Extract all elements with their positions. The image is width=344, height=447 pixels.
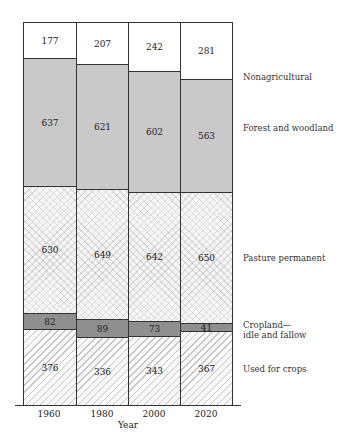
bar-segment-nonagricultural-2020: 281	[180, 22, 233, 80]
bar-segment-cropland-idle-1960: 82	[23, 313, 77, 330]
bar-value-label: 89	[97, 324, 108, 334]
legend-nonagricultural: Nonagricultural	[243, 72, 312, 82]
legend-cropland-idle-line1: Cropland—	[243, 320, 306, 330]
x-axis-title: Year	[108, 420, 148, 430]
bar-segment-cropland-idle-2020: 41	[180, 323, 233, 332]
bar-value-label: 637	[41, 118, 58, 128]
legend-cropland-idle: Cropland— idle and fallow	[243, 320, 306, 340]
legend-used-for-crops: Used for crops	[243, 364, 306, 374]
bar-segment-nonagricultural-1960: 177	[23, 22, 77, 59]
bar-value-label: 630	[41, 245, 58, 255]
bar-segment-used-for-crops-1980: 336	[76, 337, 129, 406]
bar-value-label: 376	[41, 363, 58, 373]
bar-value-label: 336	[94, 367, 111, 377]
bar-value-label: 649	[94, 250, 111, 260]
bar-value-label: 207	[94, 39, 111, 49]
x-axis-line	[15, 405, 241, 406]
x-tick-label-2000: 2000	[128, 409, 180, 419]
bar-segment-forest-woodland-2020: 563	[180, 79, 233, 193]
bar-segment-pasture-permanent-2000: 642	[128, 192, 181, 322]
stacked-bar-chart: 3768263063717719603368964962120719803437…	[0, 0, 344, 447]
bar-value-label: 367	[198, 364, 215, 374]
bar-segment-cropland-idle-1980: 89	[76, 319, 129, 338]
bar-segment-nonagricultural-1980: 207	[76, 22, 129, 65]
bar-value-label: 242	[146, 42, 163, 52]
bar-segment-forest-woodland-1960: 637	[23, 58, 77, 187]
legend-forest-woodland: Forest and woodland	[243, 123, 333, 133]
bar-value-label: 621	[94, 122, 111, 132]
bar-segment-used-for-crops-2000: 343	[128, 336, 181, 406]
bar-value-label: 73	[149, 324, 160, 334]
bar-segment-used-for-crops-1960: 376	[23, 329, 77, 406]
bar-segment-nonagricultural-2000: 242	[128, 22, 181, 72]
bar-value-label: 41	[201, 323, 212, 333]
bar-value-label: 82	[44, 317, 55, 327]
bar-value-label: 642	[146, 252, 163, 262]
bar-segment-cropland-idle-2000: 73	[128, 321, 181, 337]
bar-segment-pasture-permanent-1960: 630	[23, 186, 77, 314]
legend-pasture-permanent: Pasture permanent	[243, 253, 326, 263]
bar-value-label: 281	[198, 46, 215, 56]
bar-value-label: 177	[41, 36, 58, 46]
bar-segment-pasture-permanent-1980: 649	[76, 189, 129, 320]
bar-segment-forest-woodland-1980: 621	[76, 64, 129, 190]
bar-segment-pasture-permanent-2020: 650	[180, 192, 233, 324]
x-tick-label-1960: 1960	[23, 409, 75, 419]
x-tick-label-2020: 2020	[180, 409, 232, 419]
bar-segment-used-for-crops-2020: 367	[180, 331, 233, 406]
x-tick-label-1980: 1980	[76, 409, 128, 419]
bar-value-label: 602	[146, 127, 163, 137]
bar-segment-forest-woodland-2000: 602	[128, 71, 181, 193]
legend-cropland-idle-line2: idle and fallow	[243, 330, 306, 340]
bar-value-label: 563	[198, 131, 215, 141]
bar-value-label: 343	[146, 366, 163, 376]
bar-value-label: 650	[198, 253, 215, 263]
